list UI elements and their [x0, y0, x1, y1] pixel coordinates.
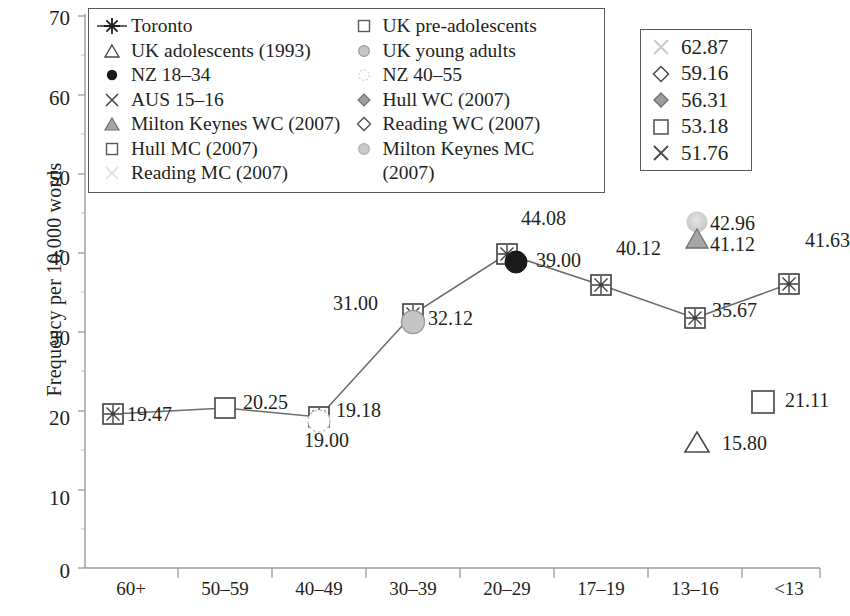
marker-uk-young-adults-30-39[interactable] [402, 311, 425, 334]
toronto-series-line [113, 254, 789, 417]
legend-label: UK adolescents (1993) [129, 39, 311, 63]
legend-item-reading-wc[interactable]: Reading WC (2007) [347, 112, 599, 137]
value-label-toronto-20-29: 44.08 [521, 208, 566, 228]
legend-item-toronto[interactable]: Toronto [95, 14, 347, 39]
circle-gray-icon [347, 39, 381, 63]
value-label-uk-pre-adolescents-lt13: 21.11 [785, 390, 829, 410]
diamond-open-icon [347, 112, 381, 136]
value-label-milton-keynes-wc-13-16: 41.12 [710, 234, 755, 254]
value-label-toronto-17-19: 40.12 [616, 238, 661, 258]
legend-item-aus-15-16[interactable]: AUS 15–16 [95, 88, 347, 113]
offscale-row-59-16[interactable]: 59.16 [645, 61, 749, 88]
marker-uk-pre-adolescents-lt13[interactable] [752, 391, 774, 413]
legend-label-multiline: Milton Keynes MC (2007) [381, 137, 535, 185]
value-label-toronto-60plus: 19.47 [127, 404, 172, 424]
value-label-uk-young-adults-30-39: 31.00 [333, 293, 378, 313]
marker-toronto-lt13[interactable] [779, 274, 799, 294]
legend-label: NZ 18–34 [129, 63, 211, 87]
legend-label: NZ 40–55 [381, 63, 463, 87]
circle-filled-icon [95, 63, 129, 87]
legend-label: UK young adults [381, 39, 516, 63]
diamond-open-icon [645, 63, 677, 85]
legend-column-right: UK pre-adolescents UK young adults [347, 14, 599, 188]
value-label-uk-adolescents-13-16: 15.80 [722, 433, 767, 453]
offscale-value: 56.31 [677, 88, 728, 113]
offscale-value: 62.87 [677, 35, 728, 60]
legend-item-uk-adolescents[interactable]: UK adolescents (1993) [95, 39, 347, 64]
value-label-toronto-30-39: 32.12 [428, 308, 473, 328]
offscale-row-62-87[interactable]: 62.87 [645, 34, 749, 61]
legend-item-hull-wc[interactable]: Hull WC (2007) [347, 88, 599, 113]
legend-item-nz-40-55[interactable]: NZ 40–55 [347, 63, 599, 88]
legend-label: Hull MC (2007) [129, 137, 258, 161]
legend-item-milton-keynes-wc[interactable]: Milton Keynes WC (2007) [95, 112, 347, 137]
marker-toronto-13-16[interactable] [685, 308, 705, 328]
cross-light-icon [645, 36, 677, 58]
legend-label: Toronto [129, 14, 192, 38]
value-label-nz-18-34-20-29: 39.00 [536, 250, 581, 270]
triangle-filled-gray-icon [95, 112, 129, 136]
offscale-row-51-76[interactable]: 51.76 [645, 140, 749, 167]
marker-hull-mc-50-59[interactable] [215, 398, 235, 418]
legend-label: Reading MC (2007) [129, 161, 288, 185]
triangle-open-icon [95, 39, 129, 63]
legend-label: Hull WC (2007) [381, 88, 510, 112]
legend-item-hull-mc[interactable]: Hull MC (2007) [95, 137, 347, 162]
value-label-toronto-40-49: 19.18 [336, 400, 381, 420]
legend-item-uk-young-adults[interactable]: UK young adults [347, 39, 599, 64]
legend-item-uk-pre-adolescents[interactable]: UK pre-adolescents [347, 14, 599, 39]
x-axis-ticks [178, 568, 820, 578]
legend-label: AUS 15–16 [129, 88, 224, 112]
offscale-row-53-18[interactable]: 53.18 [645, 114, 749, 141]
legend-label: Reading WC (2007) [381, 112, 541, 136]
value-label-toronto-lt13: 41.63 [805, 230, 850, 250]
legend-label-continued: (2007) [383, 161, 535, 185]
legend-item-reading-mc[interactable]: Reading MC (2007) [95, 161, 347, 186]
marker-nz-18-34-20-29[interactable] [505, 251, 527, 273]
marker-toronto-60plus[interactable] [103, 404, 123, 424]
legend-label: UK pre-adolescents [381, 14, 537, 38]
legend-column-left: Toronto UK adolescents (1993) [95, 14, 347, 188]
legend-item-nz-18-34[interactable]: NZ 18–34 [95, 63, 347, 88]
square-open-icon [347, 14, 381, 38]
offscale-values-legend: 62.87 59.16 56.31 53 [640, 29, 752, 171]
offscale-value: 59.16 [677, 61, 728, 86]
marker-uk-adolescents-13-16[interactable] [685, 432, 709, 452]
main-legend: Toronto UK adolescents (1993) [88, 8, 605, 193]
marker-milton-keynes-wc-13-16[interactable] [686, 229, 708, 248]
legend-label: Milton Keynes WC (2007) [129, 112, 340, 136]
diamond-filled-gray-icon [347, 88, 381, 112]
cross-light-icon [95, 161, 129, 185]
square-open-icon [645, 116, 677, 138]
value-label-hull-mc-50-59: 20.25 [243, 392, 288, 412]
cross-icon [645, 142, 677, 164]
legend-label: Milton Keynes MC [383, 137, 535, 161]
circle-dotted-icon [347, 63, 381, 87]
offscale-row-56-31[interactable]: 56.31 [645, 87, 749, 114]
marker-toronto-17-19[interactable] [591, 275, 611, 295]
value-label-nz-40-55-40-49: 19.00 [304, 430, 349, 450]
legend-item-milton-keynes-mc[interactable]: Milton Keynes MC (2007) [347, 137, 599, 186]
line-asterisk-icon [95, 14, 129, 38]
cross-icon [95, 88, 129, 112]
diamond-filled-gray-icon [645, 89, 677, 111]
offscale-value: 51.76 [677, 141, 728, 166]
circle-gray-light-icon [347, 137, 381, 161]
square-open-icon [95, 137, 129, 161]
offscale-value: 53.18 [677, 114, 728, 139]
value-label-toronto-13-16: 35.67 [712, 300, 757, 320]
value-label-milton-keynes-mc-13-16: 42.96 [710, 213, 755, 233]
